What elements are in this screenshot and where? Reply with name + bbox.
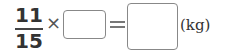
- multiplier-answer-box[interactable]: [63, 10, 106, 39]
- equals-sign: [110, 21, 125, 28]
- multiply-sign: ×: [46, 13, 61, 33]
- result-answer-box[interactable]: [127, 3, 178, 50]
- fraction-denominator: 15: [14, 30, 44, 52]
- fraction-numerator: 11: [14, 4, 44, 26]
- unit-label: (kg): [180, 15, 210, 35]
